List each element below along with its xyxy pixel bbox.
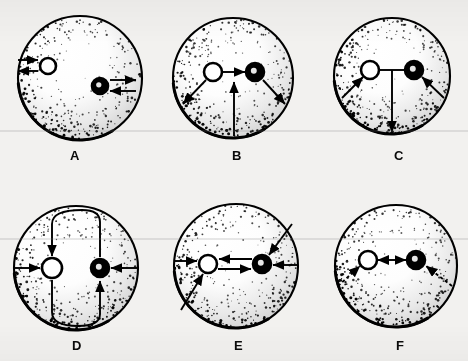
scan-seam-upper bbox=[0, 130, 468, 132]
open-circle-marker bbox=[204, 63, 222, 81]
figure-container bbox=[0, 0, 468, 361]
panel-label-c: C bbox=[394, 148, 404, 163]
panel-label-f: F bbox=[396, 338, 404, 353]
open-circle-marker bbox=[359, 251, 377, 269]
panel-c bbox=[334, 18, 450, 135]
filled-circle-highlight bbox=[412, 256, 418, 262]
open-circle-marker bbox=[361, 61, 379, 79]
filled-circle-highlight bbox=[96, 82, 101, 87]
open-circle-marker bbox=[42, 258, 62, 278]
figure-svg bbox=[0, 0, 468, 361]
panel-label-a: A bbox=[70, 148, 80, 163]
scan-seam-lower bbox=[0, 238, 468, 240]
filled-circle-highlight bbox=[410, 66, 416, 72]
panel-label-d: D bbox=[72, 338, 82, 353]
panel-f bbox=[335, 205, 457, 327]
panel-a bbox=[18, 16, 142, 140]
panel-label-b: B bbox=[232, 148, 242, 163]
panel-e bbox=[174, 204, 298, 328]
filled-circle-highlight bbox=[251, 68, 257, 74]
open-circle-marker bbox=[40, 58, 56, 74]
open-circle-marker bbox=[199, 255, 217, 273]
panel-label-e: E bbox=[234, 338, 243, 353]
panel-b bbox=[173, 18, 293, 138]
filled-circle-highlight bbox=[258, 260, 264, 266]
panel-d bbox=[14, 206, 138, 330]
filled-circle-highlight bbox=[96, 264, 102, 270]
